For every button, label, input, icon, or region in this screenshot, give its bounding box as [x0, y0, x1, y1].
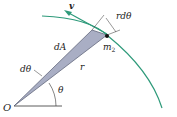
dimension-line	[106, 18, 116, 32]
velocity-label: v	[69, 1, 75, 11]
radius-label: r	[80, 62, 85, 72]
dimension-ext-1	[92, 15, 104, 30]
dtheta-pointer	[34, 70, 42, 76]
area-element-label: dA	[54, 42, 67, 52]
theta-arc	[49, 83, 56, 106]
origin-label: O	[3, 102, 11, 113]
velocity-vector	[67, 12, 107, 34]
arc-length-label: rdθ	[116, 11, 132, 21]
dtheta-label: dθ	[20, 64, 32, 74]
theta-label: θ	[58, 85, 64, 95]
orbital-area-diagram: v rdθ dA m2 r dθ θ O	[0, 0, 177, 117]
mass-point	[105, 34, 109, 38]
mass-label: m2	[103, 42, 116, 53]
dimension-ext-2	[107, 30, 120, 35]
